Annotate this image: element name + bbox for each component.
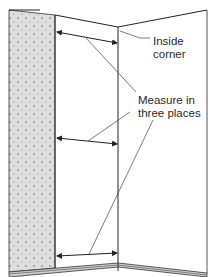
leader-measure-bottom <box>89 120 153 254</box>
label-inside-corner-line1: Inside <box>153 35 184 47</box>
leader-inside-corner <box>120 31 150 38</box>
wall-diagram: Inside corner Measure in three places <box>0 0 216 277</box>
measurement-arrow-top <box>57 32 117 43</box>
label-inside-corner: Inside corner <box>153 35 187 60</box>
ceiling-line <box>55 10 207 27</box>
measurement-arrow-middle <box>57 138 117 144</box>
measurement-arrow-bottom <box>57 253 117 256</box>
label-measure: Measure in three places <box>138 94 201 119</box>
label-inside-corner-line2: corner <box>153 48 186 60</box>
leader-measure-top <box>86 38 136 92</box>
label-measure-line1: Measure in <box>138 94 195 106</box>
leader-measure-middle <box>88 112 130 141</box>
textured-side-panel <box>9 10 55 272</box>
label-measure-line2: three places <box>138 107 201 119</box>
